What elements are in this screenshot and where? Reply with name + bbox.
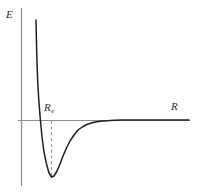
potential-curve <box>36 20 189 177</box>
equilibrium-distance-label: Re <box>44 102 54 113</box>
potential-energy-figure: E R Re <box>0 0 198 196</box>
equilibrium-distance-symbol: R <box>44 101 51 113</box>
plot-canvas <box>0 0 198 196</box>
equilibrium-distance-subscript: e <box>51 107 54 115</box>
x-axis-label: R <box>171 101 178 112</box>
y-axis-label: E <box>6 9 13 20</box>
